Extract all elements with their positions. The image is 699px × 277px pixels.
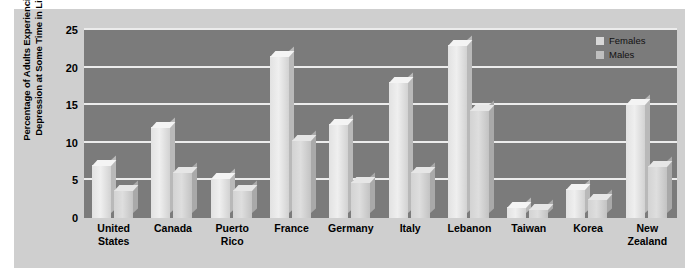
bar-males bbox=[233, 190, 252, 218]
bar-males bbox=[292, 140, 311, 218]
bar-females bbox=[507, 207, 526, 218]
legend-swatch-males bbox=[596, 51, 604, 59]
legend: FemalesMales bbox=[596, 34, 674, 62]
bar-females bbox=[448, 45, 467, 218]
bar-face bbox=[151, 127, 170, 218]
bar-females bbox=[389, 82, 408, 218]
bar-face bbox=[211, 178, 230, 218]
bar-males bbox=[114, 190, 133, 218]
bar-face bbox=[588, 199, 607, 218]
bar-face bbox=[292, 140, 311, 218]
y-tick-label: 25 bbox=[66, 24, 78, 36]
legend-item: Females bbox=[596, 34, 674, 47]
bar-group bbox=[262, 30, 321, 218]
chart-figure: Percentage of Adults Experiencing Depres… bbox=[0, 0, 699, 277]
bar-females bbox=[211, 178, 230, 218]
bar-females bbox=[270, 56, 289, 218]
bar-group bbox=[84, 30, 143, 218]
bar-face bbox=[92, 165, 111, 218]
bar-females bbox=[92, 165, 111, 218]
bar-males bbox=[529, 209, 548, 218]
bar-group bbox=[143, 30, 202, 218]
bar-series-container bbox=[84, 30, 677, 218]
bar-males bbox=[411, 172, 430, 218]
bar-face bbox=[233, 190, 252, 218]
legend-label: Females bbox=[609, 35, 645, 46]
bar-females bbox=[151, 127, 170, 218]
bar-males bbox=[173, 172, 192, 218]
bar-side bbox=[489, 100, 494, 213]
bar-males bbox=[351, 182, 370, 218]
bar-face bbox=[270, 56, 289, 218]
y-axis-tick-labels: 0510152025 bbox=[52, 24, 78, 224]
bar-males bbox=[588, 199, 607, 218]
x-tick-label-line: Rico bbox=[197, 235, 268, 248]
bar-females bbox=[329, 124, 348, 218]
bar-group bbox=[381, 30, 440, 218]
bar-females bbox=[566, 189, 585, 218]
bar-face bbox=[529, 209, 548, 218]
bar-face bbox=[329, 124, 348, 218]
x-tick-label-line: New bbox=[612, 222, 683, 235]
bar-group bbox=[321, 30, 380, 218]
bar-face bbox=[507, 207, 526, 218]
bar-face bbox=[411, 172, 430, 218]
bar-females bbox=[626, 104, 645, 218]
x-tick-label: NewZealand bbox=[612, 222, 683, 248]
bar-face bbox=[566, 189, 585, 218]
bar-males bbox=[648, 166, 667, 218]
x-tick-label-line: States bbox=[78, 235, 149, 248]
bar-face bbox=[448, 45, 467, 218]
bar-face bbox=[389, 82, 408, 218]
bar-group bbox=[499, 30, 558, 218]
plot-area bbox=[84, 30, 677, 218]
bar-face bbox=[173, 172, 192, 218]
legend-swatch-females bbox=[596, 37, 604, 45]
bar-face bbox=[626, 104, 645, 218]
y-tick-label: 15 bbox=[66, 99, 78, 111]
x-axis-tick-labels: UnitedStatesCanadaPuertoRicoFranceGerman… bbox=[84, 222, 677, 262]
bar-group bbox=[440, 30, 499, 218]
y-tick-label: 5 bbox=[72, 174, 78, 186]
bar-face bbox=[114, 190, 133, 218]
y-axis-title: Percentage of Adults Experiencing Depres… bbox=[21, 0, 45, 159]
y-tick-label: 10 bbox=[66, 137, 78, 149]
bar-face bbox=[351, 182, 370, 218]
bar-males bbox=[470, 110, 489, 218]
legend-item: Males bbox=[596, 48, 674, 61]
bar-face bbox=[470, 110, 489, 218]
bar-side bbox=[311, 130, 316, 213]
x-tick-label-line: Zealand bbox=[612, 235, 683, 248]
y-tick-label: 20 bbox=[66, 62, 78, 74]
bar-face bbox=[648, 166, 667, 218]
bar-group bbox=[203, 30, 262, 218]
legend-label: Males bbox=[609, 49, 634, 60]
